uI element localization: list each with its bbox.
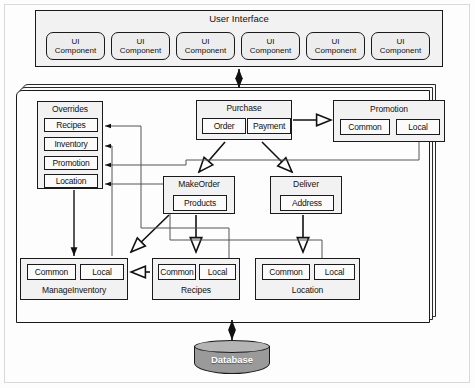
- makeorder-title: MakeOrder: [164, 179, 234, 190]
- database-cylinder[interactable]: Database: [194, 340, 270, 378]
- location-title: Location: [256, 285, 359, 296]
- recipes-item-local[interactable]: Local: [199, 264, 236, 280]
- node-deliver[interactable]: Deliver Address: [270, 176, 342, 214]
- deliver-item-address[interactable]: Address: [280, 195, 334, 211]
- recipes-title: Recipes: [153, 285, 239, 296]
- deliver-title: Deliver: [271, 179, 341, 190]
- node-manageinventory[interactable]: Common Local ManageInventory: [20, 258, 128, 300]
- purchase-item-order[interactable]: Order: [202, 118, 246, 134]
- node-purchase[interactable]: Purchase Order Payment: [196, 100, 292, 140]
- purchase-item-payment[interactable]: Payment: [247, 118, 291, 134]
- promotion-item-local[interactable]: Local: [396, 119, 440, 135]
- promotion-item-common[interactable]: Common: [340, 119, 390, 135]
- node-recipes[interactable]: Common Local Recipes: [152, 258, 240, 300]
- overrides-item-inventory[interactable]: Inventory: [44, 137, 98, 151]
- node-overrides[interactable]: Overrides Recipes Inventory Promotion Lo…: [37, 101, 103, 189]
- promotion-title: Promotion: [334, 104, 444, 115]
- diagram-canvas: User Interface UI Component UI Component…: [0, 0, 475, 388]
- overrides-item-recipes[interactable]: Recipes: [44, 118, 98, 132]
- node-makeorder[interactable]: MakeOrder Products: [163, 176, 235, 214]
- manageinventory-title: ManageInventory: [21, 285, 127, 296]
- node-promotion[interactable]: Promotion Common Local: [333, 100, 445, 142]
- recipes-item-common[interactable]: Common: [158, 264, 196, 280]
- location-item-common[interactable]: Common: [262, 264, 310, 280]
- manageinventory-item-common[interactable]: Common: [27, 264, 76, 280]
- overrides-title: Overrides: [38, 104, 102, 115]
- overrides-item-promotion[interactable]: Promotion: [44, 156, 98, 170]
- overrides-item-location[interactable]: Location: [44, 174, 98, 188]
- makeorder-item-products[interactable]: Products: [173, 195, 227, 211]
- node-location[interactable]: Common Local Location: [255, 258, 360, 300]
- connector-lines: [0, 0, 475, 388]
- database-label: Database: [194, 354, 270, 365]
- database-top-ellipse: [194, 340, 270, 353]
- location-item-local[interactable]: Local: [314, 264, 355, 280]
- purchase-title: Purchase: [197, 103, 291, 114]
- manageinventory-item-local[interactable]: Local: [80, 264, 124, 280]
